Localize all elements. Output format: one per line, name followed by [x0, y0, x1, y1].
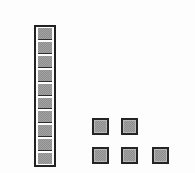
ten-rod-unit — [38, 56, 52, 68]
ten-rod-unit — [38, 70, 52, 82]
ten-rod-unit — [38, 28, 52, 40]
loose-unit-square[interactable] — [121, 118, 138, 135]
loose-unit-inner — [154, 149, 167, 162]
loose-unit-inner — [94, 120, 107, 133]
ten-rod-unit — [38, 84, 52, 96]
ten-rod-unit — [38, 111, 52, 123]
ten-rod-unit — [38, 153, 52, 164]
ten-rod-unit — [38, 98, 52, 110]
loose-unit-square[interactable] — [92, 118, 109, 135]
diagram-canvas — [0, 0, 195, 173]
loose-unit-square[interactable] — [121, 147, 138, 164]
ten-rod-unit — [38, 139, 52, 151]
loose-unit-inner — [123, 149, 136, 162]
ten-rod-block[interactable] — [34, 25, 56, 167]
loose-unit-inner — [123, 120, 136, 133]
loose-unit-square[interactable] — [152, 147, 169, 164]
loose-unit-inner — [94, 149, 107, 162]
loose-unit-square[interactable] — [92, 147, 109, 164]
ten-rod-unit — [38, 42, 52, 54]
ten-rod-unit — [38, 125, 52, 137]
